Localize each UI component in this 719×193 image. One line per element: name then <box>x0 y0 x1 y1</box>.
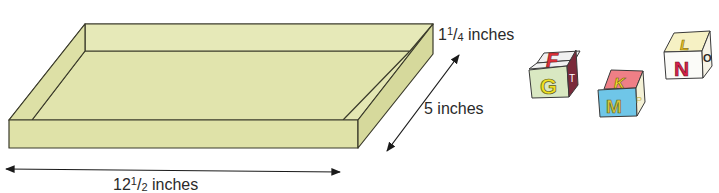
letter-block-fgt: F G T <box>529 49 580 99</box>
letter-block-kmp: K M P <box>598 70 645 117</box>
length-arrow <box>6 169 340 172</box>
tray-diagram: F G T K M P L N O 11/4 inches 5 inches <box>0 0 719 193</box>
svg-text:N: N <box>674 57 689 80</box>
svg-text:T: T <box>569 73 575 84</box>
svg-text:M: M <box>606 96 622 117</box>
letter-block-lno: L N O <box>664 31 712 80</box>
svg-text:F: F <box>546 49 559 71</box>
tray <box>9 24 433 148</box>
svg-text:G: G <box>540 74 557 99</box>
length-label: 121/2 inches <box>113 175 198 193</box>
height-label: 11/4 inches <box>438 25 514 44</box>
svg-text:P: P <box>636 95 642 105</box>
svg-text:L: L <box>680 36 689 53</box>
tray-drawing: F G T K M P L N O <box>0 0 719 193</box>
svg-text:O: O <box>703 52 712 64</box>
depth-label: 5 inches <box>424 100 484 118</box>
svg-text:K: K <box>614 74 626 91</box>
